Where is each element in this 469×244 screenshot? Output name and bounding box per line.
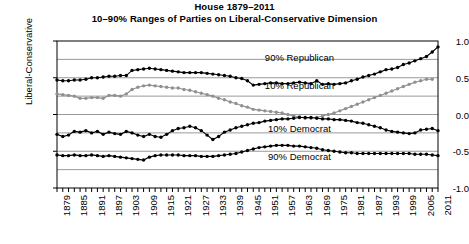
series-marker [304, 116, 307, 119]
series-marker [182, 88, 185, 91]
series-marker [61, 135, 64, 138]
series-marker [252, 122, 255, 125]
series-marker [344, 119, 347, 122]
series-marker [407, 152, 410, 155]
series-marker [321, 117, 324, 120]
x-axis-tick-label: 1957 [286, 195, 297, 216]
series-marker [355, 121, 358, 124]
series-marker [55, 133, 58, 136]
x-axis-tick-label: 1891 [96, 195, 107, 216]
series-marker [142, 135, 145, 138]
series-marker [286, 113, 289, 116]
series-marker [413, 131, 416, 134]
series-marker [373, 125, 376, 128]
series-marker [130, 131, 133, 134]
series-marker [194, 71, 197, 74]
series-marker [217, 97, 220, 100]
x-axis-tick-label: 1885 [78, 195, 89, 216]
series-marker [171, 129, 174, 132]
series-annotation: 90% Republican [265, 52, 334, 63]
series-marker [136, 158, 139, 161]
series-marker [413, 59, 416, 62]
x-axis-tick-label: 1927 [200, 195, 211, 216]
series-marker [188, 89, 191, 92]
series-marker [413, 152, 416, 155]
series-marker [367, 74, 370, 77]
series-marker [67, 133, 70, 136]
series-marker [165, 153, 168, 156]
series-marker [165, 69, 168, 72]
series-marker [177, 70, 180, 73]
x-axis-tick-label: 2011 [442, 195, 453, 215]
x-axis-tick-label: 1939 [234, 195, 245, 216]
series-marker [153, 154, 156, 157]
x-axis-tick-label: 1909 [148, 195, 159, 216]
series-marker [119, 133, 122, 136]
series-marker [338, 109, 341, 112]
y-axis-tick-label: -1.0 [419, 183, 469, 194]
series-marker [350, 151, 353, 154]
series-marker [96, 154, 99, 157]
series-marker [361, 75, 364, 78]
series-marker [171, 86, 174, 89]
series-marker [223, 98, 226, 101]
series-marker [125, 156, 128, 159]
series-marker [96, 130, 99, 133]
series-marker [425, 128, 428, 131]
series-marker [119, 155, 122, 158]
series-marker [280, 111, 283, 114]
series-marker [217, 154, 220, 157]
series-marker [257, 108, 260, 111]
series-marker [344, 151, 347, 154]
series-marker [402, 63, 405, 66]
series-annotation: 10% Republican [265, 80, 334, 91]
series-marker [275, 111, 278, 114]
series-marker [223, 153, 226, 156]
series-marker [379, 70, 382, 73]
series-marker [119, 74, 122, 77]
series-marker [390, 89, 393, 92]
series-marker [292, 144, 295, 147]
series-marker [234, 76, 237, 79]
series-marker [344, 81, 347, 84]
x-axis-tick-label: 1975 [338, 195, 349, 216]
series-marker [200, 71, 203, 74]
series-marker [350, 119, 353, 122]
series-marker [298, 116, 301, 119]
series-marker [148, 155, 151, 158]
series-marker [367, 123, 370, 126]
series-marker [413, 80, 416, 83]
series-marker [90, 131, 93, 134]
series-marker [182, 71, 185, 74]
series-marker [396, 152, 399, 155]
series-marker [257, 121, 260, 124]
series-marker [165, 133, 168, 136]
series-marker [315, 116, 318, 119]
x-axis-tick-label: 1969 [321, 195, 332, 216]
series-marker [425, 55, 428, 58]
series-marker [194, 90, 197, 93]
series-marker [263, 109, 266, 112]
series-marker [148, 66, 151, 69]
chart-figure: House 1879–2011 10–90% Ranges of Parties… [0, 0, 469, 244]
series-marker [390, 152, 393, 155]
series-marker [246, 105, 249, 108]
series-marker [84, 154, 87, 157]
series-marker [177, 153, 180, 156]
series-marker [252, 83, 255, 86]
series-marker [96, 76, 99, 79]
series-marker [61, 93, 64, 96]
series-marker [84, 97, 87, 100]
series-marker [130, 88, 133, 91]
series-marker [125, 130, 128, 133]
series-marker [373, 96, 376, 99]
series-marker [263, 145, 266, 148]
y-axis-tick-label: -0.5 [419, 146, 469, 157]
series-marker [419, 128, 422, 131]
series-marker [228, 152, 231, 155]
series-marker [61, 79, 64, 82]
series-marker [142, 158, 145, 161]
series-marker [182, 154, 185, 157]
series-annotation: 90% Democrat [268, 150, 331, 161]
series-marker [384, 91, 387, 94]
